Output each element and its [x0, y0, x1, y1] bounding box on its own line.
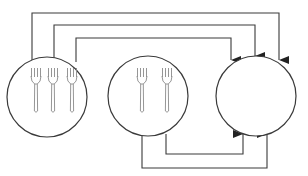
edge-bottom-inner [166, 134, 243, 154]
diagram-canvas [0, 0, 308, 176]
edge-top-middle [54, 25, 255, 58]
plate-middle [108, 56, 188, 136]
plate-circle [108, 56, 188, 136]
diagram [0, 0, 308, 176]
edge-bottom-outer [142, 134, 267, 168]
edge-top-outer [32, 13, 279, 61]
plate-left [7, 57, 87, 137]
plate-circle [7, 57, 87, 137]
plate-circle [216, 56, 296, 136]
plate-right [216, 56, 296, 136]
